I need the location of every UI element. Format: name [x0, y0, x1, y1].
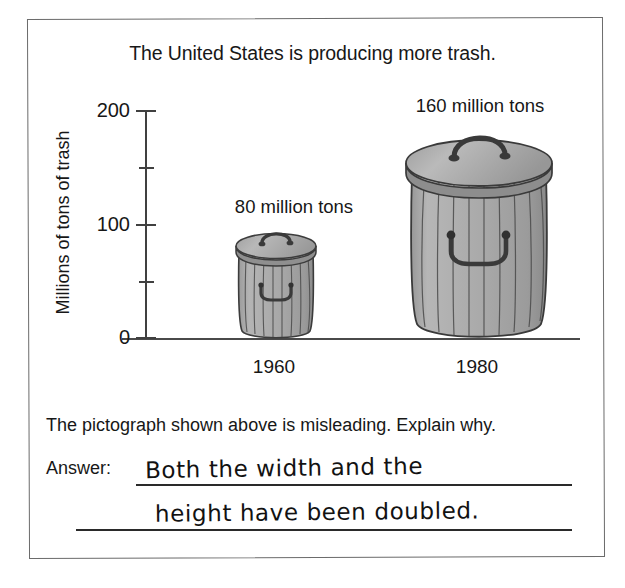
y-tick-label-100: 100 — [70, 214, 130, 234]
y-tick-50 — [139, 281, 154, 283]
y-tick-100 — [136, 224, 156, 226]
pictograph-chart: 200 100 0 Millions of tons of trash 80 m… — [0, 0, 625, 400]
value-label-1980: 160 million tons — [380, 95, 580, 117]
handwritten-answer-line-2: height have been doubled. — [155, 497, 480, 526]
trash-can-icon-1960 — [228, 226, 324, 344]
handwritten-answer-line-1: Both the width and the — [145, 453, 423, 483]
answer-rule-line-2 — [76, 529, 572, 531]
y-tick-label-200: 200 — [70, 100, 130, 120]
y-tick-0 — [136, 337, 156, 339]
y-tick-150 — [139, 167, 154, 169]
answer-label: Answer: — [46, 458, 111, 479]
trash-can-icon-1980 — [396, 125, 562, 349]
category-label-1960: 1960 — [224, 356, 324, 378]
value-label-1960: 80 million tons — [194, 196, 394, 218]
question-text: The pictograph shown above is misleading… — [46, 415, 496, 436]
y-tick-label-0: 0 — [70, 327, 130, 347]
answer-rule-line-1 — [136, 484, 572, 486]
y-axis-title: Millions of tons of trash — [53, 98, 74, 348]
category-label-1980: 1980 — [427, 356, 527, 378]
y-tick-200 — [136, 110, 156, 112]
